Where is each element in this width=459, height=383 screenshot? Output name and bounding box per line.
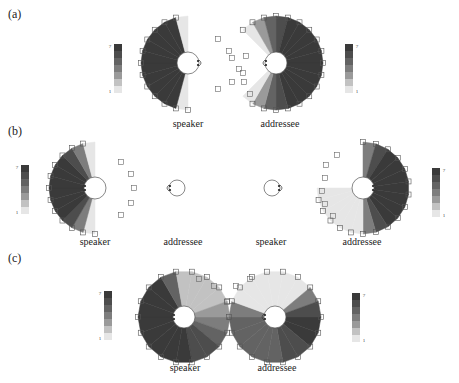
legend-max-label: 7 [16,165,19,170]
legend-min-label: 1 [109,89,112,94]
figure: (a)(b)(c)speakeraddressee7171speakeraddr… [0,0,459,383]
legend-max-label: 7 [356,44,359,49]
legend-min-label: 1 [356,89,359,94]
sample-point-marker [230,80,235,85]
sample-point-marker [129,201,134,206]
legend-min-label: 1 [16,210,19,215]
sample-point-marker [216,87,221,92]
speaker-label-a: speaker [173,118,204,129]
legend-max-label: 7 [109,44,112,49]
speaker-head-a [177,52,201,74]
sample-point-marker [242,80,247,85]
panel-label-a: (a) [8,7,21,21]
sample-point-marker [132,186,137,191]
sample-point-marker [324,163,329,168]
speaker-label-b-right: speaker [256,236,287,247]
legend-max-label: 7 [99,291,102,296]
sample-point-marker [227,49,232,54]
color-scale-legend: 71 [352,293,366,343]
addressee-label-a: addressee [261,118,300,129]
sample-point-marker [335,153,340,158]
color-scale-legend: 71 [99,291,112,341]
panel-label-c: (c) [8,251,21,265]
legend-max-label: 7 [443,168,446,173]
sample-point-marker [216,37,221,42]
sample-point-marker [119,213,124,218]
addressee-head-b-left [167,180,185,196]
sample-point-marker [129,172,134,177]
addressee-head-a [263,52,287,74]
sample-point-marker [230,56,235,61]
speaker-label-c: speaker [170,362,201,373]
sample-point-marker [323,176,328,181]
color-scale-legend: 71 [345,44,359,94]
legend-min-label: 1 [99,336,102,341]
color-scale-legend: 71 [109,44,122,94]
addressee-label-b: addressee [164,236,203,247]
speaker-label-b: speaker [80,236,111,247]
legend-min-label: 1 [363,338,366,343]
legend-min-label: 1 [443,213,446,218]
panel-label-b: (b) [8,124,22,138]
legend-max-label: 7 [363,293,366,298]
sample-point-marker [119,160,124,165]
addressee-label-b-right: addressee [343,236,382,247]
speaker-head-b-right [264,180,282,196]
sample-point-marker [234,284,239,289]
addressee-label-c: addressee [258,362,297,373]
color-scale-legend: 71 [16,165,29,215]
sample-point-marker [244,54,249,59]
color-scale-legend: 71 [432,168,446,218]
